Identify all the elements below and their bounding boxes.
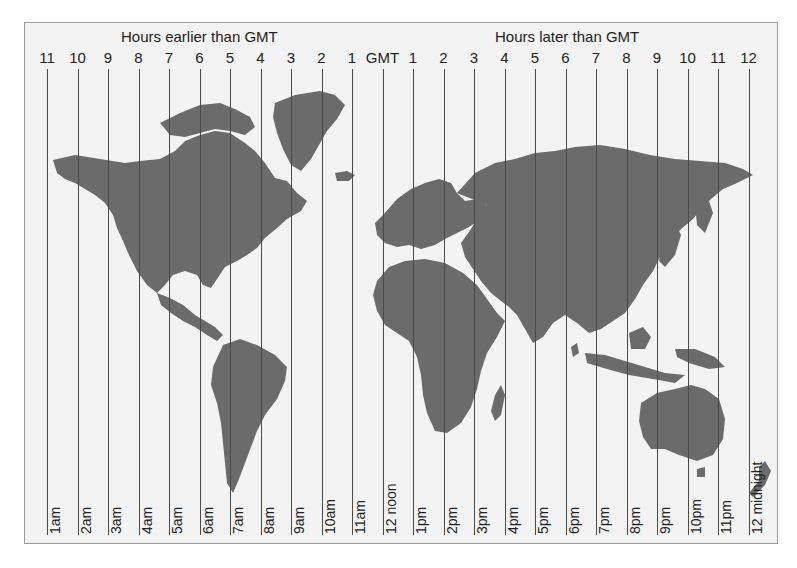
zone-offset-label: 3 — [470, 49, 478, 66]
zone-meridian-line — [627, 69, 628, 535]
zone-meridian-line — [322, 69, 323, 535]
zone-local-time-label: 6am — [200, 507, 216, 534]
zone-meridian-line — [78, 69, 79, 535]
zone-meridian-line — [413, 69, 414, 535]
arctic-islands — [160, 103, 255, 137]
zone-offset-label: 2 — [317, 49, 325, 66]
zone-offset-label: 12 — [740, 49, 757, 66]
asia — [457, 145, 753, 343]
zone-offset-label: 2 — [439, 49, 447, 66]
australia — [639, 385, 725, 461]
zone-offset-label: 11 — [710, 49, 726, 66]
north-america — [53, 131, 307, 293]
south-america — [211, 339, 287, 493]
zone-meridian-line — [352, 69, 353, 535]
time-zone-map-frame: Hours earlier than GMT Hours later than … — [24, 22, 778, 544]
zone-meridian-line — [261, 69, 262, 535]
zone-offset-label: 7 — [592, 49, 600, 66]
zone-meridian-line — [535, 69, 536, 535]
zone-offset-label: 10 — [69, 49, 86, 66]
zone-local-time-label: 8am — [261, 507, 277, 534]
zone-local-time-label: 12 midnight — [749, 462, 765, 534]
zone-offset-label: 3 — [287, 49, 295, 66]
zone-local-time-label: 2pm — [444, 507, 460, 534]
zone-offset-label: 5 — [226, 49, 234, 66]
zone-offset-label: GMT — [366, 49, 399, 66]
zone-meridian-line — [169, 69, 170, 535]
zone-meridian-line — [139, 69, 140, 535]
zone-local-time-label: 1am — [47, 507, 63, 534]
hours-earlier-heading: Hours earlier than GMT — [121, 28, 278, 45]
zone-meridian-line — [688, 69, 689, 535]
zone-local-time-label: 4pm — [505, 507, 521, 534]
madagascar — [491, 385, 505, 421]
zone-meridian-line — [566, 69, 567, 535]
zone-local-time-label: 7pm — [596, 507, 612, 534]
zone-local-time-label: 5pm — [535, 507, 551, 534]
zone-local-time-label: 6pm — [566, 507, 582, 534]
zone-offset-label: 5 — [531, 49, 539, 66]
zone-meridian-line — [47, 69, 48, 535]
zone-meridian-line — [505, 69, 506, 535]
zone-offset-label: 11 — [39, 49, 55, 66]
zone-offset-label: 6 — [195, 49, 203, 66]
zone-meridian-line — [444, 69, 445, 535]
zone-local-time-label: 4am — [139, 507, 155, 534]
zone-offset-label: 9 — [104, 49, 112, 66]
zone-offset-label: 1 — [409, 49, 417, 66]
zone-offset-label: 10 — [679, 49, 696, 66]
southeast-asia-islands — [585, 353, 685, 383]
zone-offset-label: 9 — [653, 49, 661, 66]
zone-local-time-label: 8pm — [627, 507, 643, 534]
tasmania — [697, 467, 705, 477]
zone-local-time-label: 9am — [291, 507, 307, 534]
zone-local-time-label: 3am — [108, 507, 124, 534]
zone-meridian-line — [657, 69, 658, 535]
zone-local-time-label: 12 noon — [383, 483, 399, 534]
greenland — [273, 91, 345, 171]
zone-meridian-line — [230, 69, 231, 535]
zone-offset-label: 1 — [348, 49, 356, 66]
zone-meridian-line — [200, 69, 201, 535]
zone-local-time-label: 1pm — [413, 507, 429, 534]
borneo — [629, 327, 651, 349]
sri-lanka — [571, 343, 579, 357]
zone-local-time-label: 10pm — [688, 499, 704, 534]
zone-local-time-label: 2am — [78, 507, 94, 534]
zone-offset-label: 6 — [561, 49, 569, 66]
hours-later-heading: Hours later than GMT — [495, 28, 639, 45]
zone-offset-label: 4 — [256, 49, 264, 66]
zone-local-time-label: 9pm — [657, 507, 673, 534]
zone-meridian-line — [474, 69, 475, 535]
zone-meridian-line — [383, 69, 384, 535]
zone-local-time-label: 3pm — [474, 507, 490, 534]
zone-local-time-label: 7am — [230, 507, 246, 534]
zone-meridian-line — [291, 69, 292, 535]
zone-meridian-line — [108, 69, 109, 535]
zone-local-time-label: 10am — [322, 499, 338, 534]
zone-local-time-label: 11pm — [718, 500, 734, 534]
zone-meridian-line — [718, 69, 719, 535]
zone-offset-label: 4 — [500, 49, 508, 66]
central-america — [157, 293, 223, 341]
zone-local-time-label: 11am — [352, 500, 368, 534]
zone-offset-label: 7 — [165, 49, 173, 66]
zone-local-time-label: 5am — [169, 507, 185, 534]
zone-offset-label: 8 — [622, 49, 630, 66]
zone-offset-label: 8 — [134, 49, 142, 66]
zone-meridian-line — [596, 69, 597, 535]
